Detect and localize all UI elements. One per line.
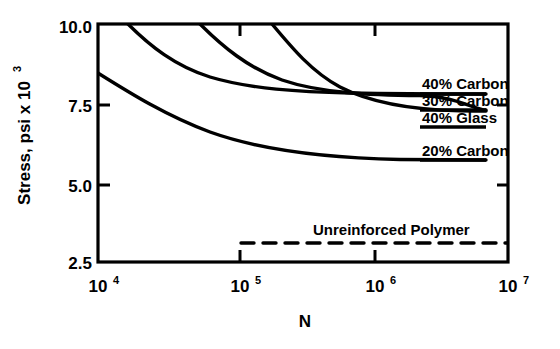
curve-label-unreinforced-polymer: Unreinforced Polymer — [313, 221, 470, 238]
svg-text:10: 10 — [499, 277, 518, 296]
svg-text:7: 7 — [523, 274, 529, 286]
svg-text:10: 10 — [231, 277, 250, 296]
svg-text:Stress, psi x 10: Stress, psi x 10 — [15, 81, 34, 205]
y-tick-label-7-5: 7.5 — [68, 97, 92, 116]
svg-text:10: 10 — [366, 277, 385, 296]
svg-text:3: 3 — [11, 66, 23, 72]
y-tick-label-2-5: 2.5 — [68, 254, 92, 273]
x-tick-label-1e4: 10 4 — [89, 274, 120, 296]
svg-text:5: 5 — [255, 274, 261, 286]
curve-label-30-carbon: 30% Carbon — [422, 92, 509, 109]
x-tick-label-1e5: 10 5 — [231, 274, 262, 296]
curve-label-20-carbon: 20% Carbon — [422, 142, 509, 159]
x-axis-ticks — [240, 250, 375, 262]
svg-text:4: 4 — [113, 274, 120, 286]
fatigue-sn-chart: 10.0 7.5 5.0 2.5 10 4 10 5 10 6 10 7 N S… — [0, 0, 560, 349]
curve-label-40-glass: 40% Glass — [422, 109, 497, 126]
svg-text:6: 6 — [390, 274, 396, 286]
x-tick-label-1e7: 10 7 — [499, 274, 530, 296]
svg-text:10: 10 — [89, 277, 108, 296]
y-tick-label-10: 10.0 — [59, 18, 92, 37]
y-axis-ticks — [98, 105, 110, 185]
chart-canvas: 10.0 7.5 5.0 2.5 10 4 10 5 10 6 10 7 N S… — [0, 0, 560, 349]
y-axis-title: Stress, psi x 10 3 — [11, 66, 34, 205]
curve-label-40-carbon: 40% Carbon — [422, 75, 509, 92]
y-tick-label-5: 5.0 — [68, 177, 92, 196]
x-tick-label-1e6: 10 6 — [366, 274, 397, 296]
x-axis-title: N — [299, 312, 311, 331]
x-axis-ticks-top — [240, 24, 375, 36]
